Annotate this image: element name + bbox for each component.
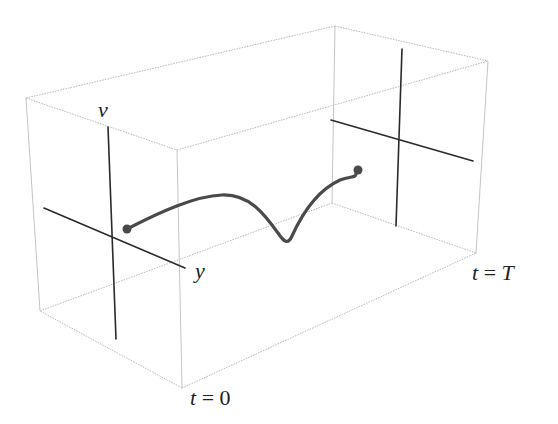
trajectory-diagram <box>0 0 558 424</box>
end-point-dot <box>354 166 363 175</box>
y-axis-label: y <box>195 260 205 282</box>
start-point-dot <box>123 225 132 234</box>
v-axis-label: v <box>98 99 108 121</box>
back-axes <box>331 49 473 226</box>
t-start-label: t = 0 <box>190 387 231 409</box>
front-y-axis <box>44 208 185 268</box>
front-v-axis <box>108 127 116 339</box>
box-front-face <box>26 98 182 388</box>
box-back-face <box>332 26 488 253</box>
trajectory-curve <box>127 170 358 241</box>
front-axes <box>44 127 185 339</box>
back-y-axis <box>331 120 473 161</box>
t-end-label: t = T <box>472 262 514 284</box>
back-v-axis <box>396 49 402 226</box>
